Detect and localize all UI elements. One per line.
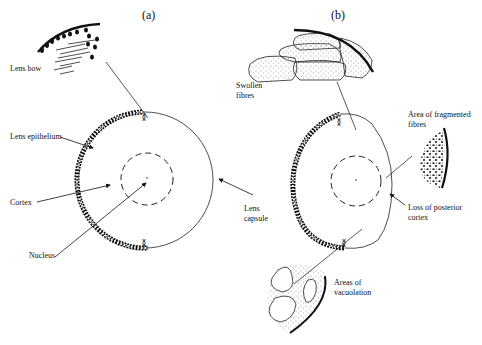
label-lens-bow: Lens bow: [10, 64, 41, 74]
label-posterior-cortex-2: cortex: [408, 213, 428, 223]
panel-a-title: (a): [142, 8, 155, 23]
panel-a: ⁑ ⁑: [37, 24, 253, 257]
lens-diagram: ⁑ ⁑ ⁑ ⁑: [0, 0, 482, 345]
label-vacuolation-2: vacuolation: [334, 288, 371, 298]
panel-b-title: (b): [331, 8, 345, 23]
label-posterior-cortex-1: Loss of posterior: [408, 203, 462, 213]
label-vacuolation-1: Areas of: [334, 278, 361, 288]
label-fragmented-fibres-2: fibres: [408, 120, 426, 130]
svg-text:⁑: ⁑: [142, 239, 146, 249]
label-swollen-fibres-2: fibres: [236, 91, 254, 101]
vacuolation-inset: [268, 264, 326, 333]
label-lens-epithelium: Lens epithelium: [10, 132, 62, 142]
label-lens-capsule-1: Lens: [244, 204, 260, 214]
label-fragmented-fibres-1: Area of fragmented: [408, 110, 471, 120]
svg-text:⁑: ⁑: [142, 113, 146, 123]
swollen-fibres-inset: [249, 34, 372, 83]
label-swollen-fibres-1: Swollen: [236, 81, 262, 91]
label-nucleus: Nucleus: [29, 251, 55, 261]
label-lens-capsule-2: capsule: [244, 214, 268, 224]
lens-bow-inset: [38, 24, 100, 74]
svg-text:⁑: ⁑: [337, 118, 341, 128]
label-cortex: Cortex: [10, 198, 32, 208]
